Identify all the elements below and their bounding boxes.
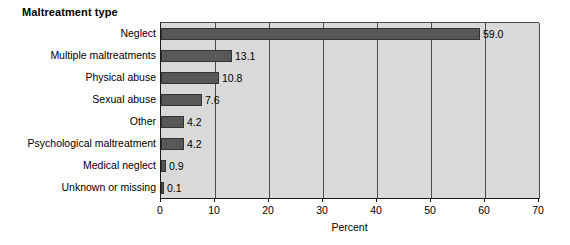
x-tick-label: 50: [410, 203, 450, 217]
x-tick-10: [214, 198, 215, 202]
bar-value-label: 13.1: [235, 48, 255, 64]
bar-row: 13.1: [161, 45, 539, 67]
category-axis-labels: NeglectMultiple maltreatmentsPhysical ab…: [5, 22, 156, 198]
category-label: Unknown or missing: [6, 179, 156, 195]
x-tick-label: 30: [302, 203, 342, 217]
x-tick-label: 10: [194, 203, 234, 217]
bar-value-label: 0.1: [167, 180, 182, 196]
bar-row: 59.0: [161, 23, 539, 45]
bar: [161, 182, 164, 194]
x-tick-label: 20: [248, 203, 288, 217]
x-tick-label: 40: [356, 203, 396, 217]
bar-value-label: 59.0: [483, 26, 503, 42]
x-axis-line: [160, 198, 539, 199]
bar: [161, 116, 184, 128]
gridline-x-70: [539, 23, 540, 199]
category-label: Physical abuse: [6, 69, 156, 85]
category-label: Medical neglect: [6, 157, 156, 173]
bar-row: 0.1: [161, 177, 539, 199]
category-label: Multiple maltreatments: [6, 47, 156, 63]
bar-row: 7.6: [161, 89, 539, 111]
x-tick-20: [268, 198, 269, 202]
category-label: Other: [6, 113, 156, 129]
bar: [161, 50, 232, 62]
bar-row: 0.9: [161, 155, 539, 177]
bar: [161, 94, 202, 106]
bar-value-label: 4.2: [187, 136, 202, 152]
bar: [161, 160, 166, 172]
x-tick-70: [538, 198, 539, 202]
x-tick-40: [376, 198, 377, 202]
x-tick-0: [160, 198, 161, 202]
bar-value-label: 10.8: [222, 70, 242, 86]
x-axis-title: Percent: [160, 221, 539, 233]
x-tick-label: 70: [518, 203, 558, 217]
category-label: Neglect: [6, 25, 156, 41]
bar: [161, 138, 184, 150]
x-tick-60: [484, 198, 485, 202]
bar-value-label: 4.2: [187, 114, 202, 130]
chart-title: Maltreatment type: [22, 6, 118, 18]
bar-row: 4.2: [161, 111, 539, 133]
plot-area: 59.013.110.87.64.24.20.90.1: [160, 22, 539, 199]
x-tick-50: [430, 198, 431, 202]
bar-row: 4.2: [161, 133, 539, 155]
bar: [161, 28, 480, 40]
x-tick-label: 0: [140, 203, 180, 217]
category-label: Psychological maltreatment: [6, 135, 156, 151]
bar-value-label: 7.6: [205, 92, 220, 108]
x-tick-30: [322, 198, 323, 202]
bar-chart-figure: Maltreatment type NeglectMultiple maltre…: [0, 0, 570, 245]
bar-value-label: 0.9: [169, 158, 184, 174]
category-label: Sexual abuse: [6, 91, 156, 107]
bar-row: 10.8: [161, 67, 539, 89]
x-tick-label: 60: [464, 203, 504, 217]
bar: [161, 72, 219, 84]
